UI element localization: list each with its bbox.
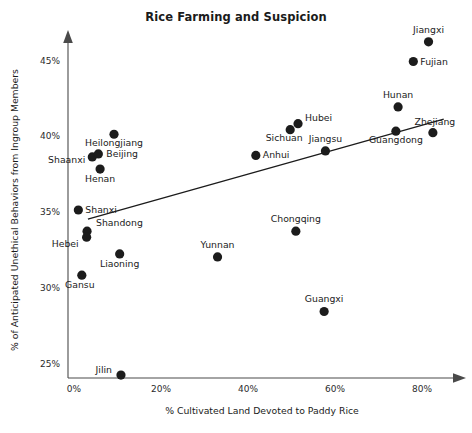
x-tick-label: 20% xyxy=(151,384,171,394)
data-point-label: Shandong xyxy=(96,217,143,228)
data-point[interactable]: Jilin xyxy=(95,364,126,380)
data-point[interactable]: Yunnan xyxy=(200,239,235,262)
y-tick-label: 35% xyxy=(40,207,60,217)
data-point-label: Henan xyxy=(85,173,115,184)
data-point-label: Heilongjiang xyxy=(85,137,143,148)
x-axis-title: % Cultivated Land Devoted to Paddy Rice xyxy=(165,405,359,416)
data-point-label: Hebei xyxy=(52,238,79,249)
data-point-marker[interactable] xyxy=(74,205,83,214)
data-point[interactable]: Gansu xyxy=(65,271,95,291)
data-point-marker[interactable] xyxy=(393,102,402,111)
y-axis-arrow-icon xyxy=(63,30,73,43)
data-point-label: Beijing xyxy=(106,148,138,159)
data-point[interactable]: Guangxi xyxy=(305,293,344,316)
data-point-marker[interactable] xyxy=(409,57,418,66)
data-point-label: Guangxi xyxy=(305,293,344,304)
data-point-label: Sichuan xyxy=(266,132,303,143)
data-point[interactable]: Hebei xyxy=(52,233,92,250)
data-point[interactable]: Jiangsu xyxy=(308,133,343,156)
data-point-label: Fujian xyxy=(420,56,448,67)
x-tick-label: 60% xyxy=(325,384,345,394)
data-point[interactable]: Shandong xyxy=(82,217,142,236)
data-point-marker[interactable] xyxy=(424,37,433,46)
data-point-marker[interactable] xyxy=(251,151,260,160)
x-axis-arrow-icon xyxy=(453,373,466,383)
data-point-marker[interactable] xyxy=(94,149,103,158)
axes-group xyxy=(63,30,466,383)
data-point[interactable]: Beijing xyxy=(94,148,138,159)
data-point-label: Zhejiang xyxy=(415,116,456,127)
data-point-marker[interactable] xyxy=(116,371,125,380)
data-point-marker[interactable] xyxy=(213,252,222,261)
data-point-marker[interactable] xyxy=(428,128,437,137)
data-point[interactable]: Chongqing xyxy=(271,213,321,236)
data-point-marker[interactable] xyxy=(293,119,302,128)
data-point[interactable]: Guangdong xyxy=(369,127,423,146)
data-point-label: Gansu xyxy=(65,279,95,290)
data-point-label: Hunan xyxy=(383,89,413,100)
data-point-label: Jiangxi xyxy=(412,24,444,35)
y-tick-label: 30% xyxy=(40,283,60,293)
data-point[interactable]: Anhui xyxy=(251,149,289,160)
x-tick-label: 80% xyxy=(412,384,432,394)
y-tick-label: 45% xyxy=(40,56,60,66)
y-tick-labels: 25%30%35%40%45% xyxy=(40,56,60,369)
data-point[interactable]: Heilongjiang xyxy=(85,130,143,149)
data-point[interactable]: Liaoning xyxy=(100,249,140,269)
data-point-marker[interactable] xyxy=(291,227,300,236)
x-tick-label: 0% xyxy=(67,384,82,394)
data-point-label: Jilin xyxy=(95,364,112,375)
data-point[interactable]: Fujian xyxy=(409,56,448,67)
data-point[interactable]: Shaanxi xyxy=(48,152,97,165)
y-tick-label: 40% xyxy=(40,131,60,141)
x-tick-label: 40% xyxy=(238,384,258,394)
data-point-label: Anhui xyxy=(263,149,290,160)
data-point-label: Yunnan xyxy=(200,239,235,250)
x-tick-labels: 0%20%40%60%80% xyxy=(67,384,433,394)
data-point-marker[interactable] xyxy=(82,233,91,242)
data-point[interactable]: Jiangxi xyxy=(412,24,444,47)
data-point[interactable]: Hubei xyxy=(293,112,332,129)
y-tick-label: 25% xyxy=(40,359,60,369)
data-point-label: Shanxi xyxy=(85,204,116,215)
data-point[interactable]: Henan xyxy=(85,164,115,184)
y-axis-title: % of Anticipated Unethical Behaviors fro… xyxy=(9,69,20,351)
chart-figure: Rice Farming and Suspicion 0%20%40%60%80… xyxy=(0,0,472,433)
data-point-label: Hubei xyxy=(305,112,332,123)
scatter-plot: 0%20%40%60%80% 25%30%35%40%45% JiangxiFu… xyxy=(0,0,472,433)
data-point-label: Guangdong xyxy=(369,134,423,145)
data-point[interactable]: Hunan xyxy=(383,89,413,112)
data-points-group: JiangxiFujianHunanZhejiangGuangdongHubei… xyxy=(48,24,455,380)
data-point-label: Chongqing xyxy=(271,213,321,224)
data-point-marker[interactable] xyxy=(321,146,330,155)
data-point[interactable]: Shanxi xyxy=(74,204,117,215)
data-point-label: Jiangsu xyxy=(308,133,343,144)
data-point-label: Shaanxi xyxy=(48,154,85,165)
data-point-marker[interactable] xyxy=(320,307,329,316)
data-point-label: Liaoning xyxy=(100,258,140,269)
